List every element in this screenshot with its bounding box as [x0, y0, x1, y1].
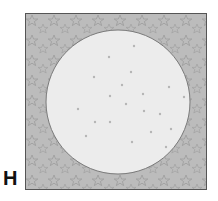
- figure-graphic: [26, 14, 207, 190]
- light-circle: [46, 30, 190, 174]
- panel-label: H: [3, 168, 17, 188]
- pattern-square: [25, 13, 207, 190]
